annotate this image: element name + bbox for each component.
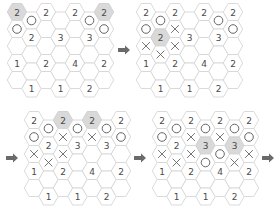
clue-number: 2 bbox=[172, 59, 178, 69]
clue-number: 2 bbox=[60, 167, 66, 177]
hex-cell bbox=[223, 21, 242, 38]
clue-number: 1 bbox=[174, 192, 180, 202]
clue-number: 2 bbox=[101, 59, 107, 69]
clue-number: 1 bbox=[29, 84, 35, 94]
clue-number: 2 bbox=[29, 33, 35, 43]
clue-number: 1 bbox=[159, 167, 165, 177]
clue-number: 2 bbox=[188, 167, 194, 177]
clue-number: 1 bbox=[14, 59, 20, 69]
hex bbox=[94, 38, 113, 55]
clue-number: 2 bbox=[87, 84, 93, 94]
clue-number: 2 bbox=[31, 116, 37, 126]
hex bbox=[111, 180, 130, 197]
clue-number: 2 bbox=[89, 116, 95, 126]
clue-number: 2 bbox=[174, 141, 180, 151]
clue-number: 3 bbox=[75, 141, 81, 151]
puzzle-sequence-figure: 2121223124322221212231243222212122312432… bbox=[0, 0, 276, 210]
hex bbox=[239, 180, 258, 197]
clue-number: 4 bbox=[201, 59, 207, 69]
clue-number: 2 bbox=[230, 59, 236, 69]
clue-number: 2 bbox=[43, 59, 49, 69]
hex-cell bbox=[239, 180, 258, 197]
right-arrow-icon bbox=[118, 46, 130, 55]
clue-number: 1 bbox=[58, 84, 64, 94]
right-arrow-icon bbox=[262, 154, 274, 163]
hex bbox=[239, 129, 258, 146]
clue-number: 2 bbox=[158, 33, 164, 43]
clue-number: 2 bbox=[246, 167, 252, 177]
hex bbox=[223, 38, 242, 55]
clue-number: 4 bbox=[72, 59, 78, 69]
clue-number: 3 bbox=[58, 33, 64, 43]
clue-number: 4 bbox=[89, 167, 95, 177]
clue-number: 2 bbox=[216, 84, 222, 94]
clue-number: 2 bbox=[60, 116, 66, 126]
hex-cell: 2 bbox=[94, 4, 113, 21]
hex-cell bbox=[239, 146, 258, 163]
hex-cell bbox=[94, 38, 113, 55]
clue-number: 1 bbox=[75, 192, 81, 202]
puzzle-panel-step-1: 21212231243222 bbox=[7, 4, 113, 98]
clue-number: 3 bbox=[187, 33, 193, 43]
right-arrow-icon bbox=[134, 154, 146, 163]
hex-cell: 2 bbox=[111, 112, 130, 129]
clue-number: 2 bbox=[246, 116, 252, 126]
clue-number: 1 bbox=[187, 84, 193, 94]
clue-number: 2 bbox=[201, 8, 207, 18]
hex-cell: 2 bbox=[111, 163, 130, 180]
hex bbox=[94, 21, 113, 38]
clue-number: 3 bbox=[87, 33, 93, 43]
hex-cell bbox=[223, 38, 242, 55]
clue-number: 2 bbox=[104, 192, 110, 202]
hex-cell bbox=[94, 72, 113, 89]
clue-number: 2 bbox=[14, 8, 20, 18]
clue-number: 1 bbox=[46, 192, 52, 202]
clue-number: 1 bbox=[31, 167, 37, 177]
clue-number: 4 bbox=[217, 167, 223, 177]
clue-number: 3 bbox=[232, 141, 238, 151]
puzzle-panel-step-2: 21212231243222 bbox=[136, 4, 242, 98]
hex bbox=[223, 72, 242, 89]
hex-cell bbox=[111, 180, 130, 197]
hex bbox=[94, 72, 113, 89]
puzzle-panel-step-3: 21212231243222 bbox=[24, 112, 130, 206]
right-arrow-icon bbox=[6, 154, 18, 163]
hex-cell bbox=[111, 129, 130, 146]
hex-cell: 2 bbox=[239, 112, 258, 129]
clue-number: 2 bbox=[43, 8, 49, 18]
clue-number: 2 bbox=[230, 8, 236, 18]
clue-number: 2 bbox=[217, 116, 223, 126]
hex bbox=[223, 21, 242, 38]
clue-number: 3 bbox=[216, 33, 222, 43]
clue-number: 1 bbox=[143, 59, 149, 69]
clue-number: 1 bbox=[203, 192, 209, 202]
clue-number: 3 bbox=[104, 141, 110, 151]
hex-cell bbox=[94, 21, 113, 38]
clue-number: 2 bbox=[159, 116, 165, 126]
clue-number: 2 bbox=[101, 8, 107, 18]
hex bbox=[111, 129, 130, 146]
clue-number: 1 bbox=[158, 84, 164, 94]
hex-cell: 2 bbox=[223, 55, 242, 72]
clue-number: 2 bbox=[72, 8, 78, 18]
clue-number: 2 bbox=[172, 8, 178, 18]
hex bbox=[111, 146, 130, 163]
clue-number: 2 bbox=[143, 8, 149, 18]
hex-cell: 2 bbox=[223, 4, 242, 21]
clue-number: 2 bbox=[188, 116, 194, 126]
hex-cell: 2 bbox=[94, 55, 113, 72]
hex-cell bbox=[223, 72, 242, 89]
clue-number: 2 bbox=[118, 116, 124, 126]
puzzle-panel-step-4: 21212231243222 bbox=[152, 112, 258, 206]
clue-number: 3 bbox=[203, 141, 209, 151]
clue-number: 2 bbox=[232, 192, 238, 202]
clue-number: 2 bbox=[118, 167, 124, 177]
hex-cell: 2 bbox=[239, 163, 258, 180]
hex-cell bbox=[239, 129, 258, 146]
clue-number: 2 bbox=[46, 141, 52, 151]
hex-cell bbox=[111, 146, 130, 163]
